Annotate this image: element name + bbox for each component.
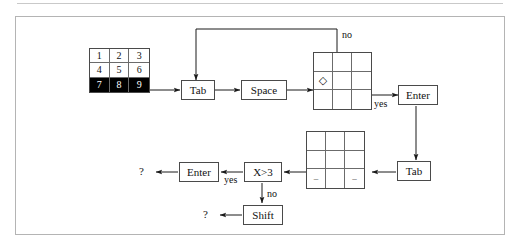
grid-cell: 2 bbox=[110, 49, 130, 63]
grid-cell bbox=[352, 72, 371, 91]
grid-cell bbox=[307, 151, 326, 170]
grid-cell-highlighted: 8 bbox=[110, 78, 130, 92]
node-enter-left[interactable]: Enter bbox=[179, 162, 219, 182]
grid-cell: 5 bbox=[110, 63, 130, 77]
terminal-question-shift: ? bbox=[203, 209, 208, 220]
grid-cell bbox=[352, 90, 371, 109]
edge-label-no-bottom: no bbox=[267, 189, 277, 199]
grid-cell-dash: – bbox=[345, 169, 364, 188]
grid-cell bbox=[333, 53, 352, 72]
grid-cell: 6 bbox=[129, 63, 149, 77]
grid-cell bbox=[333, 90, 352, 109]
edge-label-yes-bottom: yes bbox=[224, 175, 237, 185]
node-tab-right[interactable]: Tab bbox=[397, 161, 431, 181]
diamond-grid: ◇ bbox=[313, 52, 372, 110]
node-shift[interactable]: Shift bbox=[243, 205, 283, 225]
grid-cell: 1 bbox=[90, 49, 110, 63]
grid-cell bbox=[314, 90, 333, 109]
grid-cell-dash: – bbox=[307, 169, 326, 188]
numbered-grid: 1 2 3 4 5 6 7 8 9 bbox=[89, 48, 150, 93]
grid-cell bbox=[307, 132, 326, 151]
node-tab-top[interactable]: Tab bbox=[181, 80, 215, 100]
grid-cell-highlighted: 9 bbox=[129, 78, 149, 92]
edge-label-no-top: no bbox=[342, 30, 352, 40]
node-enter-right[interactable]: Enter bbox=[398, 85, 438, 105]
grid-cell bbox=[345, 132, 364, 151]
grid-cell bbox=[326, 169, 345, 188]
grid-cell-diamond: ◇ bbox=[314, 72, 333, 91]
grid-cell bbox=[333, 72, 352, 91]
grid-cell bbox=[345, 151, 364, 170]
terminal-question-enter: ? bbox=[139, 166, 144, 177]
grid-cell bbox=[352, 53, 371, 72]
figure-page: 1 2 3 4 5 6 7 8 9 ◇ – – Tab Space Enter … bbox=[0, 0, 520, 250]
grid-cell-highlighted: 7 bbox=[90, 78, 110, 92]
node-space[interactable]: Space bbox=[241, 80, 287, 100]
node-x-greater-than-3[interactable]: X>3 bbox=[244, 162, 282, 182]
grid-cell bbox=[314, 53, 333, 72]
grid-cell: 4 bbox=[90, 63, 110, 77]
edge-label-yes-right: yes bbox=[374, 99, 387, 109]
grid-cell bbox=[326, 132, 345, 151]
grid-cell: 3 bbox=[129, 49, 149, 63]
grid-cell bbox=[326, 151, 345, 170]
top-rule bbox=[17, 3, 503, 4]
dashes-grid: – – bbox=[306, 131, 365, 189]
